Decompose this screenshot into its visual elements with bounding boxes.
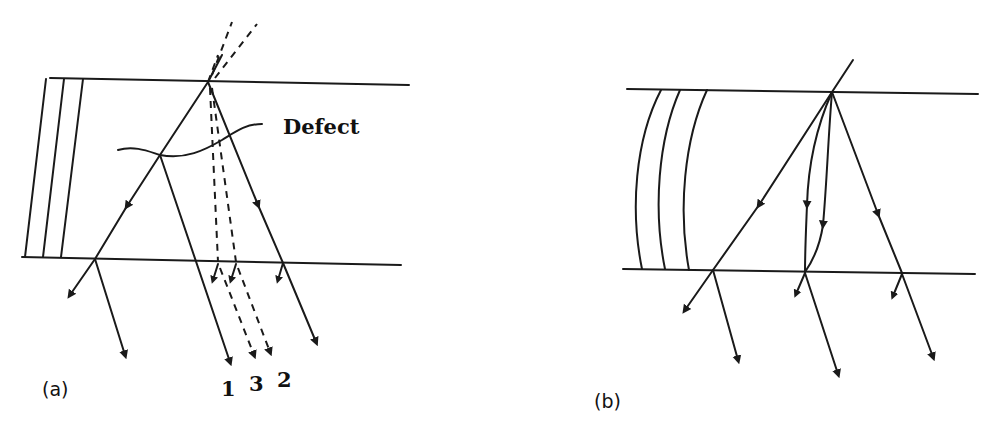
crystal-top-surface	[50, 78, 409, 85]
forward-ray-left	[160, 82, 208, 155]
exit-ray-small	[796, 273, 805, 294]
curved-ray	[805, 225, 823, 272]
exit-ray-diffracted	[713, 270, 738, 360]
forward-ray-left	[95, 206, 127, 259]
ray-1	[160, 155, 230, 362]
defect-label: Defect	[283, 114, 359, 139]
forward-ray-left	[713, 205, 759, 270]
dashed-ray-small	[231, 264, 236, 280]
crystal-bottom-surface	[623, 269, 975, 274]
forward-ray-left	[759, 92, 832, 205]
ray-3-dashed	[220, 268, 254, 355]
diffracted-ray-right	[832, 92, 878, 214]
dashed-ray-small	[213, 264, 218, 280]
bent-lattice-plane	[659, 90, 680, 269]
lattice-plane	[25, 79, 46, 257]
exit-ray	[685, 270, 713, 310]
dashed-ray	[210, 88, 218, 262]
exit-ray-left-diffracted	[95, 259, 125, 355]
incident-beam	[832, 60, 853, 92]
panel-label-a: (a)	[42, 378, 68, 400]
ray-label-1: 1	[221, 376, 236, 401]
dashed-ray	[212, 88, 236, 262]
bent-lattice-plane	[684, 90, 707, 270]
diffracted-ray-right	[878, 214, 902, 273]
exit-ray-left	[70, 259, 95, 295]
lattice-plane	[43, 79, 64, 257]
ray-3-dashed	[238, 268, 270, 352]
panel-a	[22, 22, 409, 362]
panel-b	[623, 60, 978, 374]
ray-label-3: 3	[249, 371, 264, 396]
diffraction-diagram	[0, 0, 994, 437]
exit-ray-small	[893, 274, 902, 296]
forward-ray-left	[127, 155, 160, 206]
incident-beam-dashed	[208, 55, 218, 82]
ray-2-inside	[258, 205, 283, 263]
exit-ray-diffracted	[902, 274, 933, 357]
panel-label-b: (b)	[594, 390, 621, 412]
defect-curve	[118, 124, 262, 156]
bent-lattice-plane	[636, 90, 661, 269]
curved-ray	[805, 205, 807, 272]
incident-beam-dashed	[215, 24, 257, 78]
ray-label-2: 2	[277, 367, 292, 392]
exit-ray-diffracted	[805, 273, 838, 374]
ray-2-forward-small	[278, 263, 283, 280]
ray-2	[283, 263, 316, 342]
crystal-bottom-surface	[22, 257, 401, 265]
lattice-plane	[61, 79, 83, 257]
